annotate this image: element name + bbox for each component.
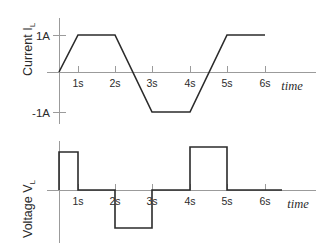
svg-text:Voltage VL: Voltage VL bbox=[21, 179, 37, 238]
current-chart: 1A -1A 1s 2s 3s 4s 5s 6s time Current IL bbox=[21, 18, 316, 124]
current-xticklabel-5s: 5s bbox=[221, 77, 232, 89]
current-xticklabel-3s: 3s bbox=[146, 77, 157, 89]
current-y-axis-title: Current IL bbox=[21, 22, 37, 76]
current-xticklabel-6s: 6s bbox=[259, 77, 270, 89]
current-y-axis-title-text: Current I bbox=[21, 27, 35, 76]
svg-text:Current IL: Current IL bbox=[21, 22, 37, 76]
current-waveform bbox=[59, 35, 265, 112]
voltage-xticklabel-4s: 4s bbox=[184, 195, 195, 207]
voltage-xticklabel-3s: 3s bbox=[146, 195, 157, 207]
waveform-figure: 1A -1A 1s 2s 3s 4s 5s 6s time Current IL bbox=[0, 0, 333, 251]
voltage-y-axis-title-text: Voltage V bbox=[21, 184, 35, 238]
current-xticklabel-1s: 1s bbox=[72, 77, 83, 89]
voltage-xticklabel-1s: 1s bbox=[72, 195, 83, 207]
voltage-time-axis-label: time bbox=[287, 197, 309, 211]
figure-canvas: 1A -1A 1s 2s 3s 4s 5s 6s time Current IL bbox=[0, 0, 333, 251]
current-xticklabel-4s: 4s bbox=[184, 77, 195, 89]
current-ylabel-1a: 1A bbox=[36, 30, 50, 42]
current-ylabel-minus1a: -1A bbox=[32, 107, 50, 119]
voltage-xticklabel-5s: 5s bbox=[221, 195, 232, 207]
current-y-axis-title-sub: L bbox=[28, 22, 37, 27]
voltage-y-axis-title-sub: L bbox=[28, 179, 37, 184]
current-time-axis-label: time bbox=[281, 79, 303, 93]
voltage-xticklabel-6s: 6s bbox=[259, 195, 270, 207]
voltage-y-axis-title: Voltage VL bbox=[21, 179, 37, 238]
current-xticklabel-2s: 2s bbox=[109, 77, 120, 89]
voltage-xticklabel-2s: 2s bbox=[109, 195, 120, 207]
voltage-chart: 1s 2s 3s 4s 5s 6s time Voltage VL bbox=[21, 141, 316, 243]
voltage-waveform bbox=[59, 147, 282, 228]
